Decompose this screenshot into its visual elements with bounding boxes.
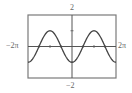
- y-min-label: −2: [66, 82, 75, 90]
- x-max-label: 2π: [118, 42, 126, 50]
- y-max-label: 2: [70, 4, 74, 12]
- x-min-label: −2π: [6, 42, 19, 50]
- graph-plot: [0, 0, 132, 93]
